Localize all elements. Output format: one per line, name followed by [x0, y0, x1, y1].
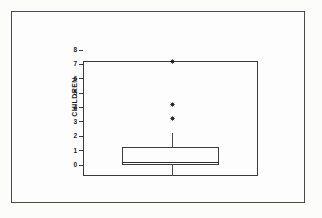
y-axis-tick-mark [79, 50, 83, 51]
y-axis-tick-label: 4 [73, 104, 77, 112]
outlier-marker [170, 102, 175, 107]
y-axis-tick-label: 0 [73, 161, 77, 169]
y-axis-tick-label: 8 [73, 46, 77, 54]
outlier-marker [170, 116, 175, 121]
y-axis-tick-label: 1 [73, 147, 77, 155]
y-axis-tick-label: 2 [73, 132, 77, 140]
median-line [122, 162, 219, 163]
y-axis-tick-label: 7 [73, 60, 77, 68]
whisker-upper [172, 133, 173, 147]
outlier-marker [170, 59, 175, 64]
y-axis-tick-label: 5 [73, 89, 77, 97]
plot-area [83, 61, 258, 176]
y-axis-tick-label: 6 [73, 75, 77, 83]
page-background: CHILDREN 876543210 [0, 0, 322, 218]
figure-outer-frame: CHILDREN 876543210 [11, 11, 305, 203]
y-axis-tick-label: 3 [73, 118, 77, 126]
whisker-lower [172, 165, 173, 177]
